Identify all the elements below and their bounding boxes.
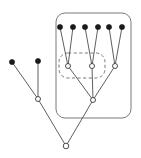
leaf-node-T6	[119, 24, 124, 29]
edge-M-R	[38, 99, 66, 146]
tree-edges	[12, 27, 122, 146]
edge-T5-C	[109, 27, 115, 66]
edge-B-N	[92, 66, 93, 100]
internal-node-A	[66, 64, 71, 69]
edge-T3-B	[85, 27, 92, 66]
internal-node-M	[36, 97, 41, 102]
tree-nodes	[9, 24, 124, 148]
edge-T2-A	[68, 27, 73, 66]
internal-node-N	[91, 98, 96, 103]
leaf-node-T4	[95, 24, 100, 29]
leaf-node-T2	[70, 24, 75, 29]
internal-node-B	[90, 64, 95, 69]
root-node-R	[63, 143, 69, 149]
edge-T6-C	[115, 27, 122, 66]
leaf-node-L1	[9, 59, 14, 64]
edge-A-N	[68, 66, 93, 100]
edge-L1-M	[12, 62, 38, 99]
leaf-node-L2	[35, 58, 40, 63]
internal-node-C	[113, 64, 118, 69]
figure-container	[0, 0, 141, 158]
leaf-node-T5	[106, 24, 111, 29]
edge-T1-A	[60, 27, 68, 66]
leaf-node-T3	[82, 24, 87, 29]
edge-T4-B	[92, 27, 98, 66]
leaf-node-T1	[57, 24, 62, 29]
tree-diagram-svg	[0, 0, 141, 158]
edge-N-R	[66, 100, 93, 146]
edge-C-N	[93, 66, 115, 100]
